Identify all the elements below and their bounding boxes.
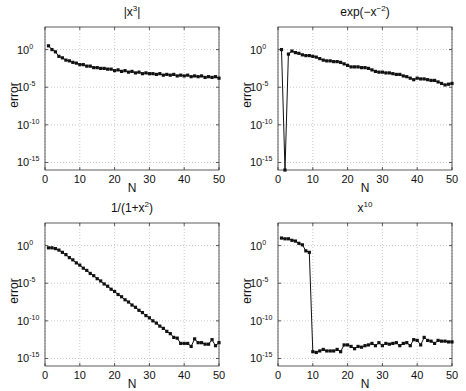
data-marker — [443, 340, 446, 343]
data-marker — [346, 343, 349, 346]
y-axis-label: error — [240, 271, 254, 311]
data-marker — [71, 61, 74, 64]
data-marker — [176, 74, 179, 77]
data-marker — [203, 76, 206, 79]
y-tick-label: 10-10 — [250, 314, 272, 327]
data-marker — [329, 59, 332, 62]
data-marker — [186, 342, 189, 345]
data-marker — [176, 337, 179, 340]
data-marker — [419, 343, 422, 346]
data-marker — [116, 293, 119, 296]
data-marker — [308, 251, 311, 254]
data-marker — [68, 256, 71, 259]
data-marker — [412, 78, 415, 81]
data-marker — [127, 300, 130, 303]
data-marker — [214, 75, 217, 78]
data-marker — [315, 56, 318, 59]
data-marker — [450, 82, 453, 85]
data-marker — [47, 44, 50, 47]
data-marker — [433, 79, 436, 82]
subplot-runge: 1/(1+x2)0102030405010010-510-1010-15erro… — [0, 196, 233, 391]
y-tick-label: 10-15 — [17, 155, 39, 168]
data-marker — [155, 322, 158, 325]
data-marker — [151, 319, 154, 322]
data-marker — [92, 274, 95, 277]
data-marker — [360, 66, 363, 69]
data-marker — [106, 285, 109, 288]
data-marker — [110, 288, 113, 291]
data-marker — [113, 290, 116, 293]
data-marker — [89, 272, 92, 275]
data-marker — [103, 282, 106, 285]
data-marker — [356, 345, 359, 348]
data-marker — [384, 342, 387, 345]
data-marker — [127, 71, 130, 74]
data-marker — [151, 72, 154, 75]
subplot-x10: x100102030405010010-510-1010-15errorN — [233, 196, 466, 391]
data-marker — [339, 61, 342, 64]
y-tick-label: 100 — [250, 43, 266, 56]
data-marker — [148, 316, 151, 319]
data-marker — [190, 75, 193, 78]
data-marker — [82, 267, 85, 270]
data-marker — [447, 340, 450, 343]
data-marker — [388, 343, 391, 346]
data-marker — [436, 80, 439, 83]
data-marker — [68, 59, 71, 62]
data-marker — [370, 68, 373, 71]
data-marker — [141, 72, 144, 75]
data-marker — [430, 340, 433, 343]
data-marker — [325, 59, 328, 62]
plot-area: 0102030405010010-510-1010-15 — [233, 196, 466, 391]
data-marker — [391, 72, 394, 75]
data-marker — [134, 71, 137, 74]
data-marker — [190, 345, 193, 348]
data-marker — [99, 67, 102, 70]
data-marker — [343, 62, 346, 65]
data-marker — [141, 311, 144, 314]
data-marker — [123, 298, 126, 301]
data-marker — [75, 261, 78, 264]
data-marker — [287, 52, 290, 55]
data-marker — [207, 75, 210, 78]
data-marker — [430, 79, 433, 82]
data-marker — [343, 343, 346, 346]
subplot-abs-x3: |x3|0102030405010010-510-1010-15errorN — [0, 0, 233, 195]
data-marker — [381, 344, 384, 347]
data-marker — [78, 63, 81, 66]
y-axis-label: error — [240, 75, 254, 115]
y-tick-label: 10-10 — [250, 118, 272, 131]
data-marker — [179, 342, 182, 345]
y-axis-label: error — [7, 271, 21, 311]
data-marker — [416, 339, 419, 342]
data-marker — [183, 342, 186, 345]
data-marker — [304, 249, 307, 252]
data-marker — [148, 72, 151, 75]
data-marker — [92, 66, 95, 69]
data-marker — [297, 242, 300, 245]
data-marker — [162, 74, 165, 77]
x-axis-label: N — [45, 377, 219, 391]
data-marker — [311, 350, 314, 353]
y-tick-label: 100 — [250, 239, 266, 252]
x-axis-label: N — [278, 377, 452, 391]
data-marker — [183, 74, 186, 77]
data-marker — [405, 75, 408, 78]
data-marker — [405, 341, 408, 344]
data-marker — [426, 78, 429, 81]
data-marker — [360, 346, 363, 349]
data-marker — [336, 348, 339, 351]
data-marker — [54, 247, 57, 250]
data-marker — [447, 83, 450, 86]
data-marker — [287, 237, 290, 240]
data-marker — [297, 52, 300, 55]
data-marker — [137, 71, 140, 74]
data-marker — [280, 48, 283, 51]
y-tick-label: 10-15 — [250, 351, 272, 364]
data-marker — [311, 55, 314, 58]
data-marker — [332, 349, 335, 352]
data-marker — [353, 347, 356, 350]
data-marker — [137, 309, 140, 312]
data-marker — [158, 72, 161, 75]
data-marker — [315, 351, 318, 354]
